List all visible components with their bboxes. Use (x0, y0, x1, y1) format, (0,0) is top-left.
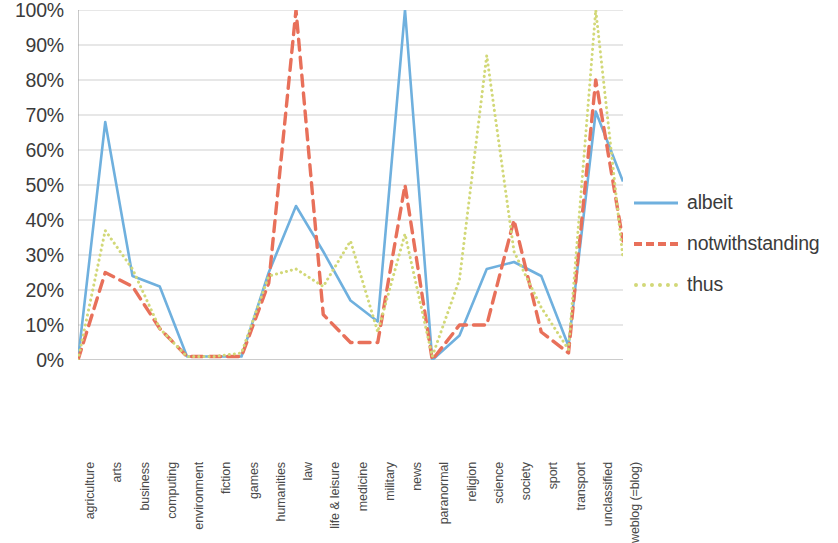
y-tick-label: 0% (36, 351, 64, 371)
plot-area (78, 10, 623, 360)
y-tick-label: 90% (26, 36, 64, 56)
legend-swatch-icon (634, 196, 678, 210)
x-tick-label: law (302, 462, 315, 480)
x-tick-label: games (248, 462, 261, 499)
legend-label: thus (687, 275, 723, 295)
x-tick-label: weblog (=blog) (629, 462, 642, 543)
x-tick-label: environment (193, 462, 206, 530)
y-tick-label: 20% (26, 281, 64, 301)
x-tick-label: paranormal (438, 462, 451, 524)
x-tick-label: arts (111, 462, 124, 482)
x-tick-label: transport (575, 462, 588, 510)
y-axis: 100%90%80%70%60%50%40%30%20%10%0% (0, 0, 72, 370)
x-tick-label: agriculture (84, 462, 97, 519)
legend: albeitnotwithstandingthus (634, 182, 834, 305)
y-tick-label: 40% (26, 211, 64, 231)
series-lines (78, 10, 623, 360)
x-tick-label: medicine (357, 462, 370, 511)
y-tick-label: 80% (26, 71, 64, 91)
x-tick-label: religion (466, 462, 479, 502)
legend-swatch-icon (634, 278, 678, 292)
x-tick-label: unclassified (602, 462, 615, 526)
legend-item[interactable]: thus (634, 264, 834, 305)
y-tick-label: 60% (26, 141, 64, 161)
y-tick-label: 30% (26, 246, 64, 266)
series-line (78, 10, 623, 360)
x-tick-label: society (520, 462, 533, 500)
y-tick-label: 70% (26, 106, 64, 126)
x-tick-label: sport (547, 462, 560, 489)
x-tick-label: life & leisure (329, 462, 342, 529)
x-tick-label: business (139, 462, 152, 511)
x-tick-label: computing (166, 462, 179, 519)
x-tick-label: fiction (220, 462, 233, 494)
x-tick-label: humanities (275, 462, 288, 521)
y-tick-label: 100% (15, 1, 64, 21)
legend-label: notwithstanding (687, 234, 820, 254)
legend-item[interactable]: albeit (634, 182, 834, 223)
y-tick-label: 50% (26, 176, 64, 196)
legend-label: albeit (687, 193, 732, 213)
x-tick-label: science (493, 462, 506, 504)
y-tick-label: 10% (26, 316, 64, 336)
x-axis: agricultureartsbusinesscomputingenvironm… (78, 362, 623, 467)
legend-item[interactable]: notwithstanding (634, 223, 834, 264)
x-tick-label: news (411, 462, 424, 491)
x-tick-label: military (384, 462, 397, 501)
legend-swatch-icon (634, 237, 678, 251)
